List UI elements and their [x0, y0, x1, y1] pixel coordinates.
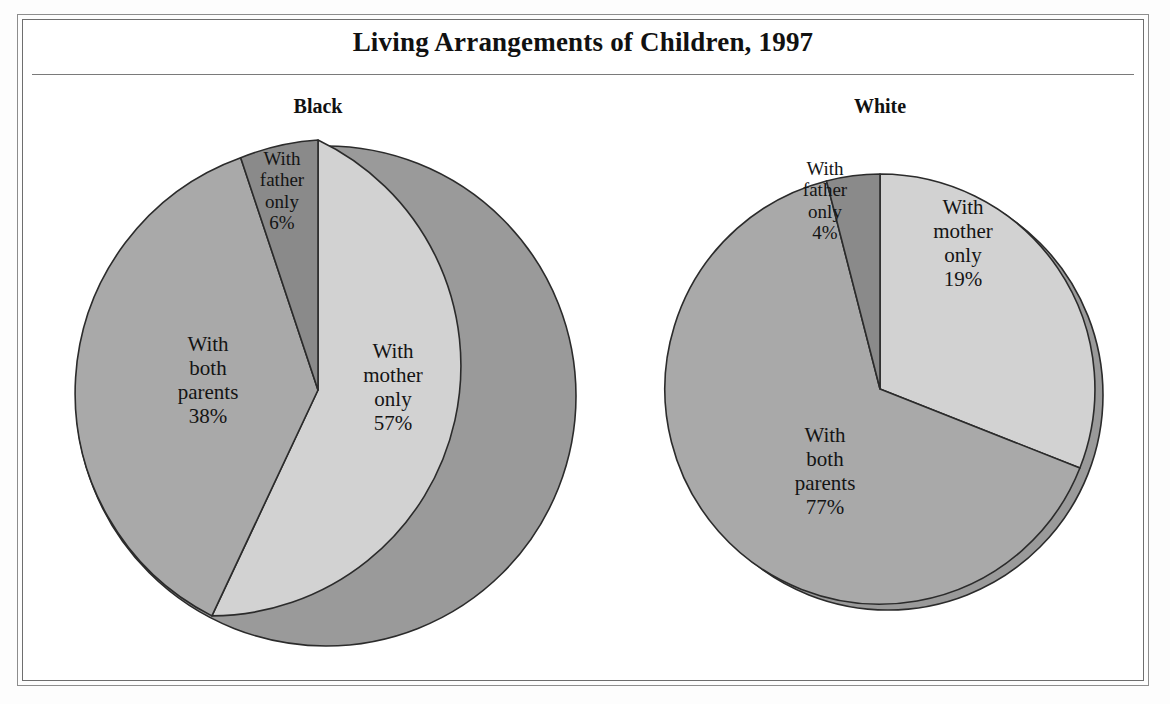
panel-title-black: Black — [218, 95, 418, 118]
pie-black-svg — [58, 128, 588, 658]
pie-chart-white — [650, 150, 1120, 620]
figure-title: Living Arrangements of Children, 1997 — [22, 27, 1144, 58]
pie-chart-black — [58, 128, 588, 658]
pie-white-svg — [650, 150, 1120, 620]
title-divider-rule — [32, 74, 1134, 75]
scanned-figure-page: Living Arrangements of Children, 1997 Bl… — [0, 0, 1170, 704]
panel-title-white: White — [780, 95, 980, 118]
